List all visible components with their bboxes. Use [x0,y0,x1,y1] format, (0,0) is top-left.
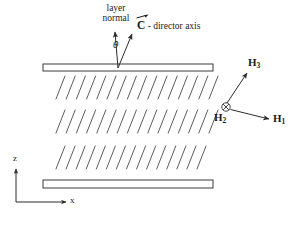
smectic-director-line [117,76,126,99]
bottom-plate [43,180,213,188]
smectic-director-line [97,110,106,133]
layer-normal-line2: normal [103,13,130,23]
h1-arrow [231,110,270,120]
smectic-director-line [167,146,176,169]
smectic-director-line [178,76,187,99]
smectic-director-line [117,110,126,133]
smectic-director-line [137,146,146,169]
h2-into-page-icon [222,103,230,111]
smectic-director-line [127,110,136,133]
smectic-director-line [127,76,136,99]
h3-label: H3 [248,57,260,70]
c-director-label: C - director axis [137,19,200,32]
smectic-director-line [199,76,208,99]
smectic-director-line [177,146,186,169]
smectic-director-line [148,76,157,99]
smectic-director-line [138,110,147,133]
smectic-director-line [189,110,198,133]
h2-letter: H [214,111,223,123]
top-plate [43,64,213,71]
smectic-director-line [76,146,85,169]
h1-label: H1 [273,113,285,126]
smectic-director-line [187,146,196,169]
smectic-director-line [199,110,208,133]
theta-angle-label: θ [113,41,119,50]
smectic-director-line [148,110,157,133]
smectic-director-line [178,110,187,133]
smectic-director-line [66,76,75,99]
smectic-director-line [189,76,198,99]
smectic-director-line [127,146,136,169]
h3-letter: H [248,56,257,68]
smectic-director-line [96,146,105,169]
layer-normal-line1: layer [107,3,126,13]
h2-label: H2 [214,112,226,125]
smectic-director-line [168,76,177,99]
figure-canvas: layer normal θ C - director axis H3 H2 H… [0,0,299,236]
z-axis-label: z [13,154,17,163]
smectic-director-line [97,76,106,99]
vector-overbar-arrow-icon [136,14,149,20]
h3-arrow [227,73,247,103]
smectic-director-line [158,110,167,133]
smectic-director-line [197,146,206,169]
smectic-director-line [168,110,177,133]
smectic-director-line [66,110,75,133]
smectic-director-line [56,110,65,133]
h3-subscript: 3 [257,61,261,70]
smectic-director-line [147,146,156,169]
smectic-director-line [56,76,65,99]
c-vector-symbol: C [137,19,145,31]
h1-subscript: 1 [282,117,286,126]
smectic-director-line [138,76,147,99]
smectic-director-line [106,146,115,169]
smectic-director-line [107,110,116,133]
smectic-director-line [86,146,95,169]
h1-letter: H [273,112,282,124]
smectic-director-line [76,76,85,99]
smectic-director-line [87,76,96,99]
smectic-director-line [66,146,75,169]
c-director-arrow [118,34,132,68]
smectic-director-line [209,76,218,99]
c-director-text: - director axis [148,21,201,31]
c-symbol-letter: C [137,19,145,31]
smectic-director-line [56,146,65,169]
smectic-director-line [107,76,116,99]
smectic-layer-group [56,76,218,169]
diagram-svg [0,0,299,236]
smectic-director-line [87,110,96,133]
smectic-director-line [158,76,167,99]
h2-subscript: 2 [223,116,227,125]
smectic-director-line [76,110,85,133]
smectic-director-line [157,146,166,169]
x-axis-label: x [70,196,75,205]
smectic-director-line [116,146,125,169]
